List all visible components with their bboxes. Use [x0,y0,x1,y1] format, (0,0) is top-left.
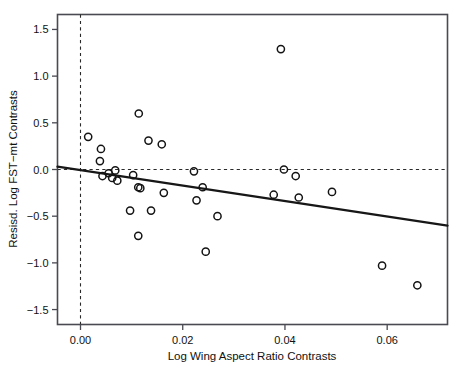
y-axis-ticks: 1.51.00.50.0−0.5−1.0−1.5 [27,23,58,315]
x-tick-label: 0.00 [70,334,91,346]
x-tick-label: 0.06 [376,334,397,346]
y-axis-label: Resisd. Log FST−mt Contrasts [7,90,19,248]
data-point [295,194,302,201]
y-tick-label: −1.5 [27,304,49,316]
data-point [190,168,197,175]
data-point [193,197,200,204]
x-axis-ticks: 0.000.020.040.06 [70,325,398,346]
data-point [112,167,119,174]
data-point [414,282,421,289]
data-point [292,172,299,179]
x-axis-label: Log Wing Aspect Ratio Contrasts [168,350,337,362]
data-point [135,110,142,117]
scatter-plot-figure: 1.51.00.50.0−0.5−1.0−1.5 0.000.020.040.0… [0,0,459,373]
data-point [126,207,133,214]
y-tick-label: 0.5 [33,117,48,129]
y-tick-label: −1.0 [27,257,49,269]
y-tick-label: −0.5 [27,210,49,222]
x-tick-label: 0.04 [274,334,295,346]
data-points-group [85,45,421,288]
y-tick-label: 1.0 [33,70,48,82]
data-point [96,158,103,165]
data-point [328,188,335,195]
data-point [97,145,104,152]
plot-svg: 1.51.00.50.0−0.5−1.0−1.5 0.000.020.040.0… [0,0,459,373]
data-point [378,262,385,269]
data-point [270,191,277,198]
y-tick-label: 0.0 [33,164,48,176]
data-point [277,45,284,52]
data-point [160,189,167,196]
regression-fit-line [58,167,448,226]
y-tick-label: 1.5 [33,23,48,35]
data-point [85,133,92,140]
data-point [135,232,142,239]
data-point [145,137,152,144]
data-point [158,141,165,148]
x-tick-label: 0.02 [172,334,193,346]
data-point [214,213,221,220]
data-point [202,248,209,255]
data-point [147,207,154,214]
